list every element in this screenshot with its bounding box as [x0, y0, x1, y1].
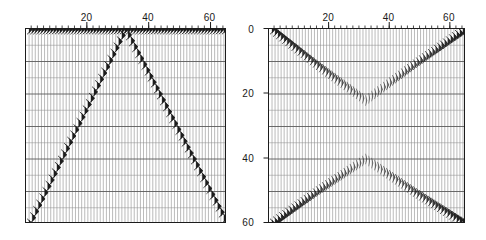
ytick-label-0: 0	[232, 24, 254, 35]
ytick-label-60: 60	[232, 216, 254, 227]
right-plot-area	[268, 28, 465, 223]
left-plot-area	[25, 28, 226, 223]
seismic-wiggle-figure: 20 40 60 0 20 40 60 20 40 60	[0, 0, 486, 240]
right-panel: 20 40 60	[262, 0, 486, 240]
shared-y-axis-labels: 0 20 40 60	[232, 28, 258, 223]
ytick-label-40: 40	[232, 152, 254, 163]
left-panel: 20 40 60	[0, 0, 250, 240]
ytick-label-20: 20	[232, 88, 254, 99]
